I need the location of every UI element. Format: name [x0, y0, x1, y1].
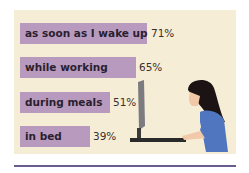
- value-label: 65%: [139, 57, 162, 78]
- bar-label: during meals: [25, 96, 102, 108]
- bar-wake-up: as soon as I wake up: [20, 23, 147, 44]
- divider-line: [14, 165, 236, 167]
- value-label: 39%: [93, 126, 116, 147]
- bar-label: as soon as I wake up: [25, 27, 148, 39]
- value-label: 71%: [151, 23, 174, 44]
- bar-in-bed: in bed: [20, 126, 90, 147]
- woman-at-computer-illustration: [128, 78, 236, 154]
- bar-during-meals: during meals: [20, 92, 110, 113]
- bar-label: in bed: [25, 130, 62, 142]
- bar-while-working: while working: [20, 57, 136, 78]
- bar-label: while working: [25, 61, 108, 73]
